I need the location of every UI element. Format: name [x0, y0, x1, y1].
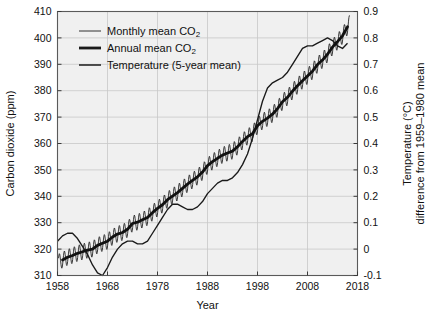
tick-label-bottom-axis: 1958 [46, 280, 70, 292]
tick-label-bottom-axis: 1978 [146, 280, 170, 292]
tick-label-right-axis: 0.2 [364, 190, 379, 202]
y2-axis-title-line1: Temperature (°C) [401, 101, 413, 185]
chart-svg: 310320330340350360370380390400410-0.100.… [0, 0, 442, 321]
tick-label-left-axis: 320 [34, 243, 52, 255]
tick-label-bottom-axis: 1968 [96, 280, 120, 292]
tick-label-left-axis: 370 [34, 111, 52, 123]
tick-label-left-axis: 400 [34, 32, 52, 44]
y-axis-title: Carbon dioxide (ppm) [4, 91, 16, 197]
tick-label-left-axis: 360 [34, 137, 52, 149]
tick-label-bottom-axis: 1998 [246, 280, 270, 292]
tick-label-left-axis: 330 [34, 216, 52, 228]
legend-label: Temperature (5-year mean) [107, 59, 241, 71]
tick-label-bottom-axis: 1988 [196, 280, 220, 292]
tick-label-right-axis: 0.1 [364, 216, 379, 228]
tick-label-right-axis: 0.8 [364, 32, 379, 44]
legend-label-subscript: 2 [196, 30, 201, 39]
co2-temperature-chart-figure: 310320330340350360370380390400410-0.100.… [0, 0, 442, 321]
tick-label-right-axis: 0.9 [364, 5, 379, 17]
tick-label-right-axis: 0.7 [364, 58, 379, 70]
tick-label-bottom-axis: 2008 [296, 280, 320, 292]
tick-label-left-axis: 410 [34, 5, 52, 17]
tick-label-bottom-axis: 2018 [346, 280, 370, 292]
tick-label-right-axis: 0.3 [364, 164, 379, 176]
tick-label-right-axis: 0.4 [364, 137, 379, 149]
legend-label-subscript: 2 [191, 47, 196, 56]
tick-label-left-axis: 350 [34, 164, 52, 176]
tick-label-left-axis: 380 [34, 84, 52, 96]
tick-label-right-axis: 0.6 [364, 84, 379, 96]
x-axis-title: Year [196, 299, 219, 311]
y2-axis-title-line2: difference from 1959–1980 mean [414, 63, 426, 225]
tick-label-left-axis: 340 [34, 190, 52, 202]
tick-label-left-axis: 390 [34, 58, 52, 70]
tick-label-right-axis: 0 [364, 243, 370, 255]
tick-label-right-axis: 0.5 [364, 111, 379, 123]
